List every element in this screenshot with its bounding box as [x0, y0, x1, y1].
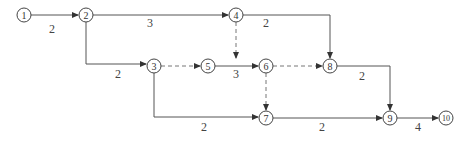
duration-label-9-10: 4 [415, 120, 421, 134]
node-label: 5 [206, 61, 211, 72]
node-label: 6 [264, 61, 269, 72]
edge-labels: 2 3 2 2 2 3 2 2 4 [49, 16, 421, 134]
node-label: 4 [234, 10, 239, 21]
node-label: 10 [442, 114, 450, 123]
duration-label-2-3: 2 [115, 67, 121, 81]
edge-2-3 [86, 22, 146, 64]
duration-label-3-7: 2 [201, 120, 207, 134]
node-label: 8 [328, 61, 333, 72]
network-diagram: 2 3 2 2 2 3 2 2 4 1 2 3 4 5 [0, 0, 465, 143]
node-8: 8 [323, 59, 337, 73]
node-label: 7 [264, 113, 269, 124]
node-label: 1 [22, 10, 27, 21]
node-3: 3 [147, 59, 161, 73]
node-4: 4 [229, 8, 243, 22]
node-5: 5 [201, 59, 215, 73]
node-label: 2 [84, 10, 89, 21]
node-9: 9 [383, 111, 397, 125]
edge-4-8 [243, 15, 330, 58]
duration-label-7-9: 2 [319, 120, 325, 134]
node-label: 3 [152, 61, 157, 72]
node-10: 10 [439, 111, 453, 125]
node-label: 9 [388, 113, 393, 124]
node-7: 7 [259, 111, 273, 125]
duration-label-2-4: 3 [147, 16, 153, 30]
node-6: 6 [259, 59, 273, 73]
duration-label-1-2: 2 [49, 22, 55, 36]
node-1: 1 [17, 8, 31, 22]
edge-3-7 [154, 73, 258, 117]
duration-label-8-9: 2 [359, 69, 365, 83]
node-2: 2 [79, 8, 93, 22]
duration-label-5-6: 3 [233, 67, 239, 81]
duration-label-4-8: 2 [263, 16, 269, 30]
